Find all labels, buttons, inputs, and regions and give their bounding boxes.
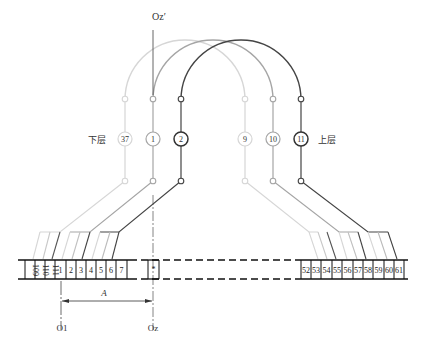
origin-label: O1 <box>57 323 68 333</box>
slot-7: 7 <box>120 266 124 275</box>
upper-layer-label: 上层 <box>318 135 336 145</box>
coil-arcs <box>125 40 301 100</box>
slot-56: 56 <box>344 266 352 275</box>
slot-52: 52 <box>302 266 310 275</box>
center-slot-marker: * <box>152 265 156 274</box>
slot-59: 59 <box>375 266 383 275</box>
slot-3: 3 <box>79 266 83 275</box>
slot-55: 55 <box>333 266 341 275</box>
slot-53: 53 <box>312 266 320 275</box>
left-slot-labels: 109 110 111 1 2 3 4 5 6 7 <box>31 264 124 276</box>
slot-57: 57 <box>354 266 362 275</box>
slot-109: 109 <box>31 264 40 276</box>
slot-61: 61 <box>395 266 403 275</box>
slot-2: 2 <box>69 266 73 275</box>
coil-label-9: 9 <box>243 135 247 144</box>
coil-label-1: 1 <box>151 135 155 144</box>
coil-arc-mid <box>153 40 273 100</box>
axis-top-label: Oz′ <box>152 11 166 22</box>
slot-1: 1 <box>59 266 63 275</box>
coil-number-circles <box>118 132 308 146</box>
coil-arc-dark <box>181 40 301 100</box>
winding-diagram: Oz′ <box>0 0 425 353</box>
dimension-a: A <box>62 288 152 303</box>
slot-110: 110 <box>41 264 50 276</box>
right-leads <box>245 181 397 259</box>
center-slot: * <box>148 260 159 279</box>
coil-label-11: 11 <box>297 135 305 144</box>
slot-4: 4 <box>89 266 93 275</box>
coil-label-10: 10 <box>269 135 277 144</box>
dimension-label: A <box>100 288 107 298</box>
left-leads <box>33 181 181 259</box>
slot-60: 60 <box>385 266 393 275</box>
coil-label-37: 37 <box>121 135 129 144</box>
lower-layer-label: 下层 <box>88 135 106 145</box>
slot-6: 6 <box>109 266 113 275</box>
coil-arc-light <box>125 40 245 100</box>
axis-bottom-label: Oz <box>148 323 159 333</box>
slot-5: 5 <box>99 266 103 275</box>
slot-54: 54 <box>323 266 331 275</box>
coil-label-2: 2 <box>179 135 183 144</box>
slot-58: 58 <box>364 266 372 275</box>
